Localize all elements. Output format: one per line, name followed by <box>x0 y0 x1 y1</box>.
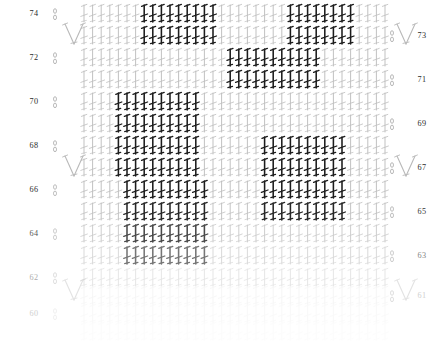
row-label-left: 70 <box>30 97 39 106</box>
row-label-right: 65 <box>418 207 427 216</box>
row-label-left: 60 <box>30 309 39 318</box>
row-label-right: 63 <box>418 251 427 260</box>
row-label-right: 73 <box>418 31 427 40</box>
row-label-right: 71 <box>418 75 427 84</box>
row-label-right: 69 <box>418 119 427 128</box>
crochet-chart-root: 747372717069686766656463626160 <box>0 0 444 350</box>
row-label-left: 68 <box>30 141 39 150</box>
row-label-left: 74 <box>30 9 39 18</box>
row-label-left: 62 <box>30 273 39 282</box>
row-label-right: 61 <box>418 291 427 300</box>
row-label-right: 67 <box>418 163 427 172</box>
row-label-left: 64 <box>30 229 39 238</box>
row-label-left: 72 <box>30 53 39 62</box>
row-label-left: 66 <box>30 185 39 194</box>
crochet-chart-canvas: 747372717069686766656463626160 <box>0 0 444 350</box>
